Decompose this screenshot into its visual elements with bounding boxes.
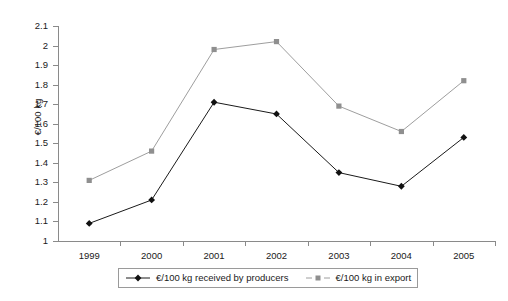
- chart-legend: €/100 kg received by producers €/100 kg …: [118, 268, 418, 288]
- data-point-marker: [212, 47, 217, 52]
- data-point-marker: [87, 178, 92, 183]
- diamond-marker-icon: [125, 273, 151, 283]
- line-chart: €/100 kg 2.121.91.81.71.61.51.41.31.21.1…: [0, 0, 508, 301]
- data-point-marker: [336, 104, 341, 109]
- square-marker-icon: [305, 273, 331, 283]
- data-point-marker: [461, 78, 466, 83]
- series-layer: [0, 0, 508, 301]
- series-line-producers: [89, 102, 464, 223]
- data-point-marker: [148, 197, 155, 204]
- legend-label-producers: €/100 kg received by producers: [156, 273, 289, 283]
- legend-entry-export: €/100 kg in export: [305, 273, 412, 283]
- legend-label-export: €/100 kg in export: [336, 273, 412, 283]
- data-point-marker: [149, 149, 154, 154]
- data-point-marker: [399, 129, 404, 134]
- data-point-marker: [211, 99, 218, 106]
- data-point-marker: [274, 39, 279, 44]
- data-point-marker: [86, 220, 93, 227]
- legend-entry-producers: €/100 kg received by producers: [125, 273, 289, 283]
